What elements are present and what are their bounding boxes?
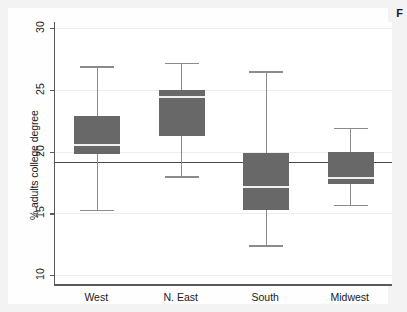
lower-whisker	[97, 154, 98, 210]
lower-whisker	[350, 184, 351, 205]
boxplot-south[interactable]	[224, 22, 309, 284]
median-line	[74, 144, 120, 146]
x-axis-line	[54, 285, 392, 286]
upper-whisker	[97, 66, 98, 115]
upper-whisker-cap	[334, 128, 368, 129]
upper-whisker	[266, 71, 267, 152]
boxplot-west[interactable]	[55, 22, 140, 284]
plot-inner: 1015202530	[55, 22, 392, 284]
figure-caption-fragment: F	[396, 7, 403, 19]
lower-whisker-cap	[80, 210, 114, 211]
median-line	[243, 186, 289, 188]
median-line	[159, 96, 205, 98]
box-iqr	[74, 116, 120, 154]
y-axis-tick-label: 25	[34, 78, 46, 100]
y-axis-tick-label: 15	[34, 201, 46, 223]
plot-area: 1015202530	[54, 22, 392, 285]
y-axis-tick-label: 20	[34, 140, 46, 162]
upper-whisker-cap	[165, 63, 199, 64]
x-axis-label-west: West	[84, 291, 108, 303]
x-axis-label-south: South	[252, 291, 279, 303]
lower-whisker-cap	[165, 176, 199, 177]
upper-whisker-cap	[249, 71, 283, 72]
lower-whisker	[181, 136, 182, 177]
boxplot-n-east[interactable]	[140, 22, 225, 284]
upper-whisker-cap	[80, 66, 114, 67]
box-iqr	[328, 152, 374, 184]
boxplot-midwest[interactable]	[309, 22, 394, 284]
lower-whisker	[266, 210, 267, 246]
upper-whisker	[181, 63, 182, 90]
box-iqr	[243, 153, 289, 210]
x-axis-label-midwest: Midwest	[330, 291, 369, 303]
upper-whisker	[350, 128, 351, 151]
chart-card: % adults college degree 1015202530 WestN…	[8, 8, 388, 304]
lower-whisker-cap	[334, 205, 368, 206]
lower-whisker-cap	[249, 245, 283, 246]
y-axis-tick-label: 30	[34, 16, 46, 38]
median-line	[328, 177, 374, 179]
figure-root: % adults college degree 1015202530 WestN…	[0, 0, 407, 312]
y-axis-tick-label: 10	[34, 263, 46, 285]
x-axis-label-n-east: N. East	[164, 291, 198, 303]
